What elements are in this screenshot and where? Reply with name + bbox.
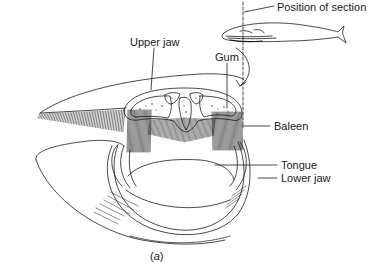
label-gum: Gum bbox=[215, 51, 239, 63]
label-lower-jaw: Lower jaw bbox=[281, 172, 331, 184]
tongue-outline bbox=[128, 160, 234, 180]
label-baleen: Baleen bbox=[274, 120, 308, 132]
lower-jaw-outline bbox=[36, 140, 124, 160]
upper-jaw-outline bbox=[40, 74, 244, 113]
baleen-whale-diagram: Position of section Upper jaw Gum Baleen… bbox=[0, 0, 374, 280]
lower-jaw-bowl bbox=[114, 142, 244, 230]
whale-silhouette bbox=[222, 23, 346, 43]
label-tongue: Tongue bbox=[281, 159, 317, 171]
upper-jaw-leader bbox=[151, 48, 154, 90]
label-position-of-section: Position of section bbox=[277, 1, 366, 13]
label-upper-jaw: Upper jaw bbox=[130, 36, 180, 48]
diagram-drawing bbox=[0, 0, 374, 280]
figure-caption: (a) bbox=[150, 250, 163, 262]
